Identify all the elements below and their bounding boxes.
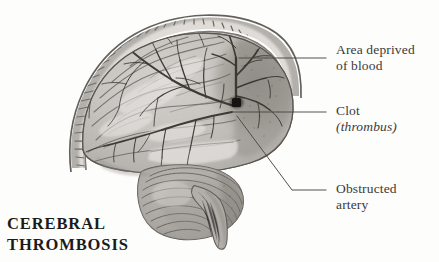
label-clot-line2: (thrombus) — [336, 119, 397, 135]
label-clot: Clot (thrombus) — [336, 103, 397, 134]
label-obstructed-artery-line2: artery — [336, 197, 397, 213]
figure-caption-line1: CEREBRAL — [7, 213, 129, 234]
label-obstructed-artery-line1: Obstructed — [336, 181, 397, 197]
cerebellum — [130, 160, 255, 250]
label-area-deprived-line2: of blood — [336, 58, 415, 74]
figure-page: Area deprived of blood Clot (thrombus) O… — [0, 0, 439, 262]
label-area-deprived: Area deprived of blood — [336, 42, 415, 73]
label-clot-line1: Clot — [336, 103, 397, 119]
clot-marker — [230, 97, 244, 109]
label-obstructed-artery: Obstructed artery — [336, 181, 397, 212]
figure-caption: CEREBRAL THROMBOSIS — [7, 213, 129, 255]
label-area-deprived-line1: Area deprived — [336, 42, 415, 58]
figure-caption-line2: THROMBOSIS — [7, 234, 129, 255]
